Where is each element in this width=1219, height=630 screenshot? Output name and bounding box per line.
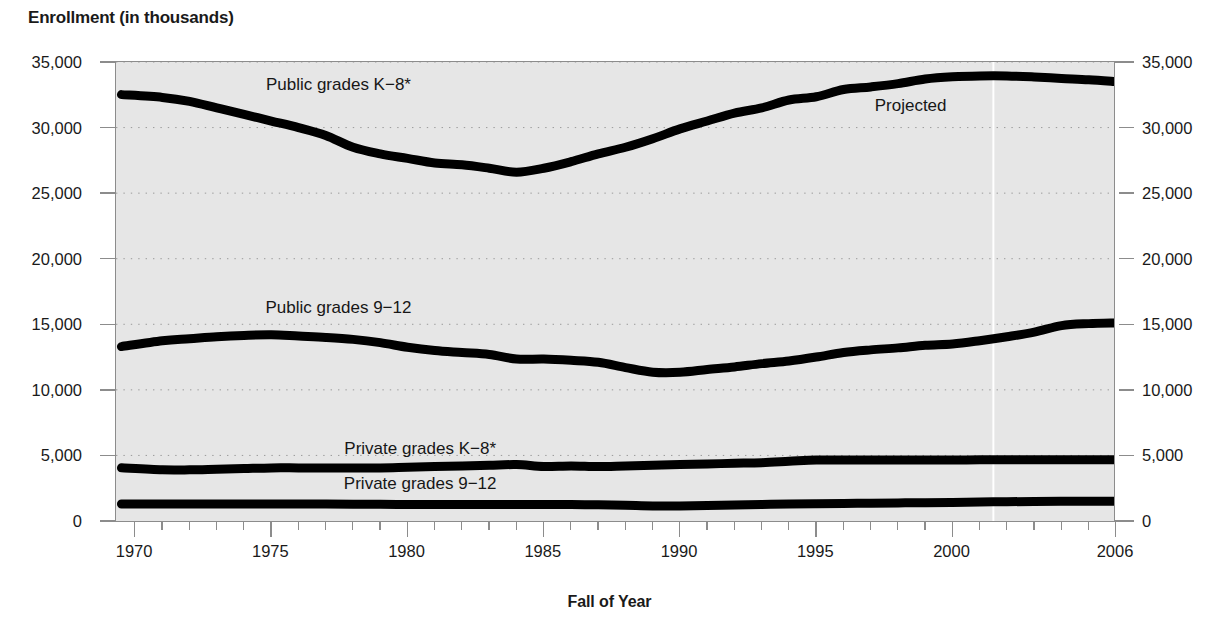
x-tick-mark-major — [407, 521, 408, 537]
x-tick-mark-minor — [761, 521, 762, 530]
x-tick-mark-minor — [924, 521, 925, 530]
x-tick-mark-minor — [325, 521, 326, 530]
y-tick-label-left: 5,000 — [41, 447, 82, 464]
x-tick-mark-minor — [1033, 521, 1034, 530]
y-tick-mark-right — [1119, 61, 1134, 63]
series-line-2 — [121, 460, 1115, 470]
x-tick-mark-minor — [1006, 521, 1007, 530]
series-annotation-3: Private grades 9−12 — [344, 474, 497, 491]
x-tick-mark-minor — [298, 521, 299, 530]
y-tick-label-right: 25,000 — [1142, 185, 1192, 202]
x-tick-mark-minor — [189, 521, 190, 530]
x-tick-label: 1970 — [116, 543, 153, 560]
y-tick-mark-left — [100, 258, 115, 260]
x-tick-mark-major — [543, 521, 544, 537]
x-tick-mark-minor — [1088, 521, 1089, 530]
x-tick-mark-minor — [1061, 521, 1062, 530]
y-tick-label-left: 25,000 — [32, 185, 82, 202]
y-tick-mark-right — [1119, 520, 1134, 522]
x-tick-mark-minor — [843, 521, 844, 530]
series-lines-group — [121, 76, 1115, 506]
y-tick-mark-right — [1119, 127, 1134, 129]
plot-area — [115, 62, 1115, 521]
x-tick-mark-minor — [243, 521, 244, 530]
plot-svg — [116, 62, 1115, 521]
footnote-strip — [10, 618, 750, 630]
y-tick-label-right: 0 — [1142, 513, 1151, 530]
y-tick-mark-left — [100, 324, 115, 326]
y-tick-label-right: 5,000 — [1142, 447, 1183, 464]
x-tick-mark-minor — [352, 521, 353, 530]
x-tick-mark-minor — [652, 521, 653, 530]
x-tick-mark-major — [1115, 521, 1116, 537]
x-tick-mark-minor — [570, 521, 571, 530]
series-annotation-4: Projected — [875, 97, 947, 114]
x-tick-mark-minor — [706, 521, 707, 530]
x-tick-mark-minor — [734, 521, 735, 530]
x-tick-mark-minor — [379, 521, 380, 530]
x-tick-mark-minor — [516, 521, 517, 530]
enrollment-line-chart-figure: Enrollment (in thousands) 005,0005,00010… — [0, 0, 1219, 630]
y-tick-mark-right — [1119, 192, 1134, 194]
y-tick-mark-left — [100, 127, 115, 129]
series-line-1 — [121, 323, 1115, 373]
x-tick-label: 1990 — [661, 543, 698, 560]
y-tick-mark-right — [1119, 258, 1134, 260]
y-tick-label-left: 20,000 — [32, 251, 82, 268]
chart-title: Enrollment (in thousands) — [28, 8, 234, 28]
x-tick-mark-minor — [979, 521, 980, 530]
x-tick-mark-minor — [161, 521, 162, 530]
series-line-3 — [121, 501, 1115, 506]
x-tick-mark-minor — [488, 521, 489, 530]
y-tick-mark-right — [1119, 324, 1134, 326]
y-tick-label-left: 0 — [73, 513, 82, 530]
x-tick-label: 2000 — [933, 543, 970, 560]
y-tick-label-right: 20,000 — [1142, 251, 1192, 268]
x-tick-mark-minor — [788, 521, 789, 530]
x-tick-label: 1975 — [252, 543, 289, 560]
x-tick-mark-minor — [216, 521, 217, 530]
series-annotation-1: Public grades 9−12 — [265, 299, 411, 316]
y-tick-mark-left — [100, 389, 115, 391]
x-tick-label: 1980 — [388, 543, 425, 560]
x-tick-label: 1995 — [797, 543, 834, 560]
x-tick-mark-minor — [897, 521, 898, 530]
y-tick-label-right: 10,000 — [1142, 382, 1192, 399]
x-tick-mark-major — [952, 521, 953, 537]
x-tick-mark-major — [270, 521, 271, 537]
x-tick-mark-major — [679, 521, 680, 537]
x-tick-label: 1985 — [524, 543, 561, 560]
x-tick-mark-major — [815, 521, 816, 537]
x-tick-mark-minor — [461, 521, 462, 530]
y-tick-label-right: 35,000 — [1142, 54, 1192, 71]
y-tick-label-left: 10,000 — [32, 382, 82, 399]
x-tick-mark-minor — [597, 521, 598, 530]
x-tick-mark-major — [134, 521, 135, 537]
y-tick-mark-left — [100, 455, 115, 457]
series-annotation-0: Public grades K−8* — [266, 76, 411, 93]
x-tick-mark-minor — [870, 521, 871, 530]
series-annotation-2: Private grades K−8* — [344, 439, 496, 456]
y-tick-mark-left — [100, 61, 115, 63]
y-tick-mark-left — [100, 520, 115, 522]
y-tick-label-left: 35,000 — [32, 54, 82, 71]
y-tick-label-right: 15,000 — [1142, 316, 1192, 333]
x-tick-mark-minor — [625, 521, 626, 530]
y-tick-label-left: 30,000 — [32, 120, 82, 137]
y-tick-mark-left — [100, 192, 115, 194]
y-tick-mark-right — [1119, 389, 1134, 391]
y-tick-label-right: 30,000 — [1142, 120, 1192, 137]
x-axis-title: Fall of Year — [0, 593, 1219, 611]
y-tick-mark-right — [1119, 455, 1134, 457]
x-tick-label: 2006 — [1097, 543, 1134, 560]
x-tick-mark-minor — [434, 521, 435, 530]
y-tick-label-left: 15,000 — [32, 316, 82, 333]
